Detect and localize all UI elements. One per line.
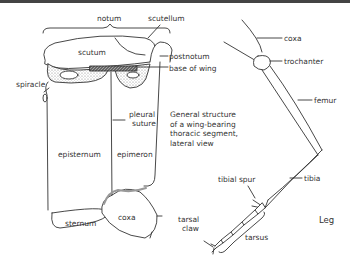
label-episternum: episternum — [58, 150, 101, 159]
label-femur: femur — [314, 96, 336, 105]
caption-line-4: lateral view — [170, 139, 250, 149]
label-postnotum: postnotum — [169, 52, 210, 61]
label-tibia: tibia — [304, 174, 320, 183]
label-leg-coxa: coxa — [284, 34, 302, 43]
diagram-caption: General structure of a wing-bearing thor… — [170, 110, 250, 148]
label-tarsal-claw-2: claw — [182, 224, 199, 233]
label-trochanter: trochanter — [284, 57, 323, 66]
label-pleural-suture-2: suture — [132, 119, 156, 128]
caption-line-1: General structure — [170, 110, 250, 120]
notum-bracket — [43, 24, 170, 33]
caption-line-3: thoracic segment, — [170, 129, 250, 139]
label-tibial-spur: tibial spur — [218, 175, 255, 184]
label-scutellum: scutellum — [148, 14, 185, 23]
label-scutum: scutum — [78, 48, 106, 57]
leg-title: Leg — [319, 215, 334, 225]
label-sternum: sternum — [65, 219, 96, 228]
label-pleural-suture-1: pleural — [129, 110, 155, 119]
label-spiracle: spiracle — [16, 80, 45, 89]
label-base-of-wing: base of wing — [169, 64, 217, 73]
label-notum: notum — [97, 14, 121, 23]
label-tarsal-claw-1: tarsal — [178, 215, 199, 224]
label-coxa-thorax: coxa — [118, 213, 136, 222]
caption-line-2: of a wing-bearing — [170, 120, 250, 130]
label-epimeron: epimeron — [117, 150, 153, 159]
label-tarsus: tarsus — [245, 233, 268, 242]
